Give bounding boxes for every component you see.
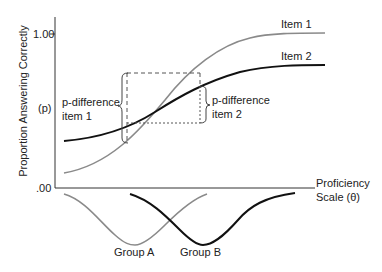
x-axis-label-line1: Proficiency bbox=[316, 177, 370, 190]
pdiff-item-2-line1: p-difference bbox=[212, 94, 270, 107]
pdiff-item-2-line2: item 2 bbox=[212, 108, 242, 121]
group-a-label: Group A bbox=[114, 246, 154, 259]
group-b-label: Group B bbox=[180, 246, 221, 259]
y-axis-label: Proportion Answering Correctly bbox=[17, 16, 29, 186]
pdiff-item-1-line1: p-difference bbox=[62, 96, 120, 109]
diagram-canvas bbox=[0, 0, 382, 272]
group-a-curve bbox=[64, 194, 207, 245]
y-tick-top-label: 1.00 bbox=[33, 28, 54, 41]
y-axis-symbol: (p) bbox=[38, 102, 51, 115]
y-tick-bottom-label: .00 bbox=[36, 182, 51, 195]
item-1-label: Item 1 bbox=[281, 18, 312, 31]
brace-item-2 bbox=[200, 86, 210, 123]
item-2-label: Item 2 bbox=[281, 50, 312, 63]
pdiff-item-1-line2: item 1 bbox=[62, 110, 92, 123]
x-axis-label-line2: Scale (θ) bbox=[316, 191, 360, 204]
group-b-curve bbox=[130, 193, 295, 245]
